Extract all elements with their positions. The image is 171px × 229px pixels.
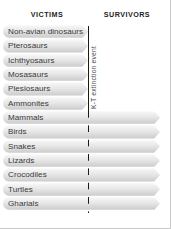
kt-boundary-label: K-T extinction event	[88, 28, 100, 110]
taxon-row: Non-avian dinosaurs	[0, 25, 166, 38]
taxon-label: Birds	[8, 125, 27, 138]
taxon-rows: Non-avian dinosaursPterosaursIchthyosaur…	[0, 25, 166, 213]
taxon-label: Mosasaurs	[8, 68, 48, 81]
taxon-row: Gharials	[0, 197, 166, 210]
kt-boundary-line-dashed	[88, 111, 89, 213]
taxon-row: Ammonites	[0, 97, 166, 110]
taxon-label: Plesiosaurs	[8, 82, 50, 95]
taxon-label: Snakes	[8, 140, 35, 153]
taxon-row: Turtles	[0, 183, 166, 196]
column-heading-victims: VICTIMS	[6, 10, 88, 19]
taxon-row: Snakes	[0, 140, 166, 153]
taxon-row: Plesiosaurs	[0, 82, 166, 95]
column-headings: VICTIMS SURVIVORS	[0, 10, 166, 22]
taxon-row: Lizards	[0, 154, 166, 167]
taxon-row: Pterosaurs	[0, 39, 166, 52]
taxon-row: Mosasaurs	[0, 68, 166, 81]
column-heading-survivors: SURVIVORS	[88, 10, 166, 19]
taxon-label: Lizards	[8, 154, 34, 167]
taxon-label: Ichthyosaurs	[8, 54, 55, 67]
taxon-label: Turtles	[8, 183, 33, 196]
extinction-figure: · · VICTIMS SURVIVORS Non-avian dinosaur…	[0, 0, 171, 229]
taxon-label: Pterosaurs	[8, 39, 48, 52]
taxon-label: Mammals	[8, 111, 43, 124]
taxon-label: Gharials	[8, 197, 39, 210]
taxon-row: Birds	[0, 125, 166, 138]
taxon-row: Crocodiles	[0, 168, 166, 181]
taxon-label: Non-avian dinosaurs	[8, 25, 83, 38]
taxon-label: Crocodiles	[8, 168, 47, 181]
clipped-caption-remnant: · ·	[0, 0, 166, 2]
taxon-row: Mammals	[0, 111, 166, 124]
taxon-row: Ichthyosaurs	[0, 54, 166, 67]
taxon-label: Ammonites	[8, 97, 49, 110]
